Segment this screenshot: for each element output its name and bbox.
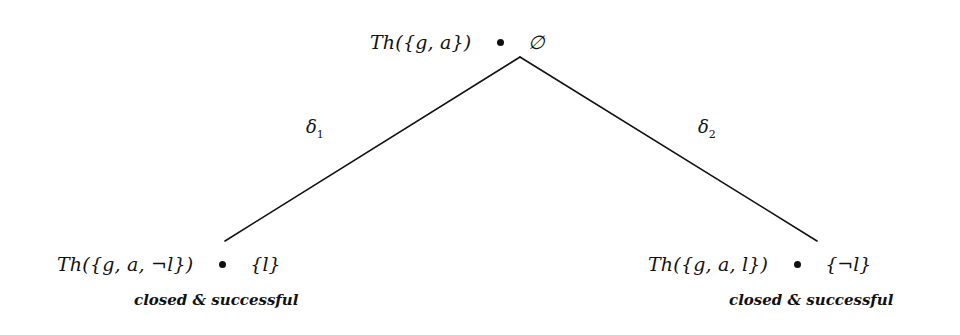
edge-label-right-symbol: δ [698, 116, 709, 137]
node-root: Th({g, a}) ∅ [370, 31, 545, 53]
diagram-canvas: Th({g, a}) ∅ δ1 δ2 Th({g, a, ¬l}) {l} cl… [0, 0, 960, 335]
node-leaf-left-caption: closed & successful [134, 291, 298, 309]
node-leaf-left-set-label: {l} [250, 253, 280, 275]
node-leaf-right: Th({g, a, l}) {¬l} [648, 253, 871, 275]
edge-label-right-subscript: 2 [709, 128, 716, 141]
edge-label-delta-2: δ2 [698, 116, 716, 141]
node-leaf-right-caption: closed & successful [729, 291, 893, 309]
node-leaf-right-dot-icon [794, 261, 801, 268]
edge-label-delta-1: δ1 [306, 116, 324, 141]
node-leaf-left-dot-icon [219, 261, 226, 268]
node-root-dot-icon [497, 39, 504, 46]
node-root-theory-label: Th({g, a}) [370, 31, 471, 53]
edge-label-left-symbol: δ [306, 116, 317, 137]
node-leaf-right-set-label: {¬l} [825, 253, 871, 275]
node-leaf-left: Th({g, a, ¬l}) {l} [57, 253, 281, 275]
edge-label-left-subscript: 1 [317, 128, 324, 141]
node-leaf-left-theory-label: Th({g, a, ¬l}) [57, 253, 193, 275]
node-root-set-label: ∅ [528, 31, 545, 53]
node-leaf-right-theory-label: Th({g, a, l}) [648, 253, 768, 275]
edge-line-right [520, 57, 817, 241]
edge-line-left [225, 57, 520, 241]
